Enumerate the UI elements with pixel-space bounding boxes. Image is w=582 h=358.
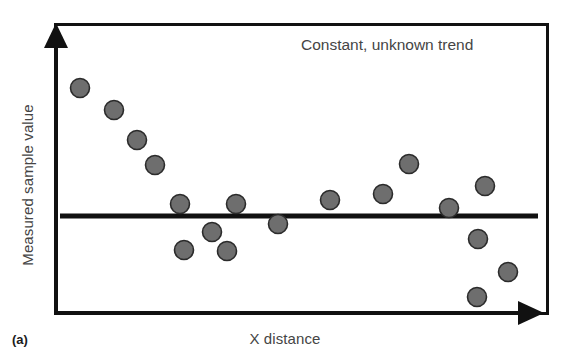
data-point xyxy=(469,230,488,249)
y-axis-arrow-icon xyxy=(44,23,68,48)
data-point xyxy=(218,242,237,261)
data-point xyxy=(374,185,393,204)
scatter-plot: Constant, unknown trend Measured sample … xyxy=(0,0,582,358)
plot-frame xyxy=(56,25,548,314)
data-point xyxy=(128,131,147,150)
data-point xyxy=(499,263,518,282)
figure-container: Constant, unknown trend Measured sample … xyxy=(0,0,582,358)
data-point xyxy=(440,199,459,218)
data-point xyxy=(321,191,340,210)
data-point xyxy=(171,195,190,214)
data-point xyxy=(203,223,222,242)
x-axis-arrow-icon xyxy=(518,301,544,325)
data-point xyxy=(468,288,487,307)
data-point xyxy=(227,195,246,214)
data-point xyxy=(71,79,90,98)
y-axis-label: Measured sample value xyxy=(19,104,36,265)
x-axis-label: X distance xyxy=(249,330,320,347)
data-point xyxy=(175,241,194,260)
data-point-group xyxy=(71,79,518,307)
data-point xyxy=(146,156,165,175)
data-point xyxy=(400,155,419,174)
data-point xyxy=(476,177,495,196)
data-point xyxy=(105,101,124,120)
data-point xyxy=(269,215,288,234)
plot-title: Constant, unknown trend xyxy=(301,36,473,53)
figure-caption: (a) xyxy=(12,332,28,347)
